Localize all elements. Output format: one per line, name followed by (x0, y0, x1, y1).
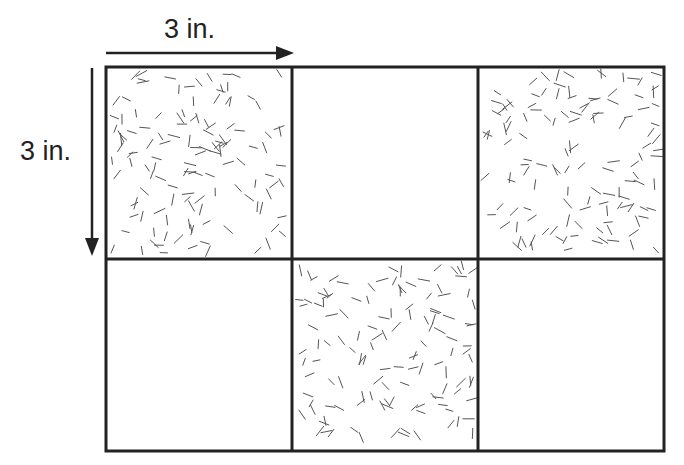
shading-pattern (110, 69, 664, 443)
vertical-arrow-icon (85, 68, 99, 256)
grid-diagram (0, 0, 684, 465)
grid-lines (106, 67, 664, 451)
horizontal-arrow-icon (106, 46, 294, 60)
